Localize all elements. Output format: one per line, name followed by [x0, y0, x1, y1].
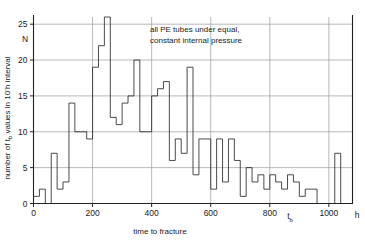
- y-tick-label: 20: [18, 55, 28, 65]
- x-tick-label: 400: [145, 208, 159, 218]
- annotation-line-2: constant internal pressure: [150, 36, 243, 45]
- y-title-prefix: number of t: [3, 138, 12, 179]
- y-tick-label: 5: [23, 163, 28, 173]
- y-tick-label: 25: [18, 19, 28, 29]
- y-axis-title: number of tb values in 10-h interval: [2, 56, 13, 179]
- chart-canvas: 02004006008001000 0510152025 N tb h time…: [0, 0, 365, 242]
- y-axis-symbol-N: N: [22, 34, 28, 44]
- x-tick-label: 1000: [319, 208, 338, 218]
- x-axis-title: time to fracture: [133, 227, 187, 236]
- y-tick-label: 15: [18, 91, 28, 101]
- x-axis-unit-hours: h: [355, 210, 360, 220]
- x-axis-tb-marker: tb: [287, 211, 293, 223]
- annotation-line-1: all PE tubes under equal,: [150, 25, 239, 34]
- y-tick-label: 10: [18, 127, 28, 137]
- x-tick-label: 0: [31, 208, 36, 218]
- x-tick-label: 800: [263, 208, 277, 218]
- y-tick-label: 0: [23, 199, 28, 209]
- y-tick-labels: 0510152025: [18, 19, 28, 208]
- x-tick-label: 600: [204, 208, 218, 218]
- y-title-mid: values in 10: [3, 90, 12, 135]
- y-title-suffix: h interval: [3, 56, 12, 89]
- x-tick-label: 200: [85, 208, 99, 218]
- histogram-figure: 02004006008001000 0510152025 N tb h time…: [0, 0, 365, 242]
- tb-subscript: b: [290, 217, 294, 223]
